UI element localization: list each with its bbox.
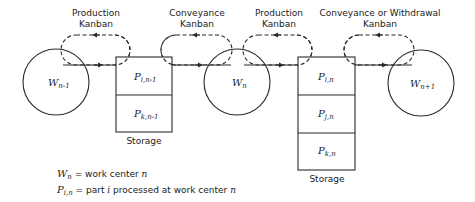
svg-text:Conveyance or Withdrawal: Conveyance or Withdrawal bbox=[319, 8, 440, 18]
svg-text:Conveyance: Conveyance bbox=[169, 8, 225, 18]
label-production-kanban-1: Production Kanban bbox=[72, 8, 120, 29]
storage-label: Storage bbox=[309, 174, 345, 184]
work-center-n: Wn bbox=[204, 49, 270, 115]
work-center-n-1: Wn-1 bbox=[23, 49, 89, 115]
label-conveyance-withdrawal-kanban: Conveyance or Withdrawal Kanban bbox=[319, 8, 440, 29]
label-conveyance-kanban-1: Conveyance Kanban bbox=[169, 8, 225, 29]
svg-text:Production: Production bbox=[72, 8, 120, 18]
label-production-kanban-2: Production Kanban bbox=[255, 8, 303, 29]
legend-item-part: Pi,n = part i processed at work center n bbox=[56, 184, 236, 197]
legend-item-work-center: Wn = work center n bbox=[57, 168, 148, 181]
svg-text:Wn: Wn bbox=[232, 77, 247, 90]
storage-2: Pi,n Pj,n Pk,n Storage bbox=[298, 57, 355, 184]
storage-1: Pi,n-1 Pk,n-1 Storage bbox=[116, 57, 172, 146]
kanban-diagram: Production Kanban Conveyance Kanban Prod… bbox=[0, 0, 475, 202]
svg-text:Production: Production bbox=[255, 8, 303, 18]
svg-text:Wn-1: Wn-1 bbox=[48, 77, 70, 90]
legend: Wn = work center n Pi,n = part i process… bbox=[56, 168, 236, 197]
storage-label: Storage bbox=[126, 136, 162, 146]
work-center-n-plus-1: Wn+1 bbox=[388, 50, 454, 116]
svg-text:Kanban: Kanban bbox=[79, 19, 113, 29]
svg-text:Kanban: Kanban bbox=[180, 19, 214, 29]
svg-text:Kanban: Kanban bbox=[363, 19, 397, 29]
svg-text:Wn+1: Wn+1 bbox=[410, 78, 435, 91]
svg-text:Kanban: Kanban bbox=[262, 19, 296, 29]
